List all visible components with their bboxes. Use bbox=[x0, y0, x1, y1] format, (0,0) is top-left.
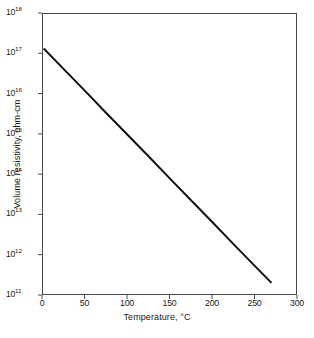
chart-figure: 10111012101310141015101610171018 0501001… bbox=[0, 0, 314, 338]
y-axis-title: Volume resistivity, ohm-cm bbox=[12, 4, 22, 304]
x-tick-label: 300 bbox=[282, 299, 312, 308]
x-tick-label: 0 bbox=[27, 299, 57, 308]
plot-area-frame bbox=[42, 13, 297, 295]
x-axis-title: Temperature, °C bbox=[0, 312, 314, 322]
y-axis-title-wrapper: Volume resistivity, ohm-cm bbox=[12, 4, 26, 304]
x-tick-label: 250 bbox=[240, 299, 270, 308]
x-tick-label: 200 bbox=[197, 299, 227, 308]
x-tick-label: 150 bbox=[155, 299, 185, 308]
x-tick-label: 100 bbox=[112, 299, 142, 308]
x-tick-label: 50 bbox=[70, 299, 100, 308]
